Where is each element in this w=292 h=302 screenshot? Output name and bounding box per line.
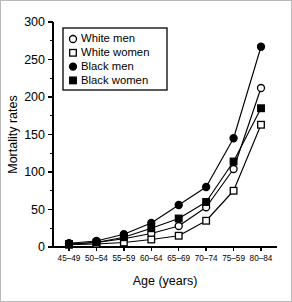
legend-marker [70, 50, 77, 57]
legend-marker [70, 77, 77, 84]
legend-label: White men [81, 32, 135, 44]
x-tick-label: 75–59 [222, 254, 245, 263]
legend-marker [70, 36, 77, 43]
legend-label: Black men [81, 60, 134, 72]
data-point-marker [230, 187, 237, 194]
y-tick-label: 250 [24, 53, 45, 67]
x-tick-label: 70–74 [195, 254, 218, 263]
data-point-marker [175, 232, 182, 239]
data-point-marker [203, 199, 210, 206]
y-tick-label: 50 [31, 203, 45, 217]
mortality-rates-line-chart: 050100150200250300 45–4950–5455–5960–646… [1, 1, 291, 301]
y-tick-label: 100 [24, 165, 45, 179]
legend-label: White women [81, 46, 149, 58]
data-point-marker [121, 234, 128, 241]
legend-marker [70, 63, 77, 70]
data-point-marker [258, 121, 265, 128]
x-tick-label: 80–84 [250, 254, 273, 263]
data-point-marker [258, 43, 265, 50]
x-axis-tick-labels: 45–4950–5455–5960–6465–6970–7475–5980–84 [58, 254, 273, 263]
series-line [69, 108, 261, 244]
series-line [69, 125, 261, 245]
data-point-marker [175, 223, 182, 230]
x-tick-label: 65–69 [167, 254, 190, 263]
data-point-marker [175, 202, 182, 209]
y-tick-label: 0 [38, 240, 45, 254]
legend: White menWhite womenBlack menBlack women [63, 28, 167, 90]
data-point-marker [93, 239, 100, 246]
data-point-marker [230, 166, 237, 173]
y-axis-tick-labels: 050100150200250300 [24, 15, 45, 254]
data-point-marker [258, 105, 265, 112]
data-point-marker [203, 184, 210, 191]
y-tick-label: 150 [24, 128, 45, 142]
legend-label: Black women [81, 74, 148, 86]
x-tick-label: 55–59 [112, 254, 135, 263]
data-point-marker [203, 217, 210, 224]
data-point-marker [66, 241, 73, 248]
data-point-marker [175, 215, 182, 222]
data-point-marker [148, 236, 155, 243]
data-point-marker [148, 225, 155, 232]
figure-container: 050100150200250300 45–4950–5455–5960–646… [0, 0, 292, 302]
y-axis-ticks [48, 22, 53, 247]
y-axis-title: Mortality rates [6, 95, 20, 174]
x-tick-label: 50–54 [85, 254, 108, 263]
data-point-marker [230, 135, 237, 142]
x-tick-label: 45–49 [58, 254, 81, 263]
data-point-marker [258, 85, 265, 92]
x-axis-title: Age (years) [133, 274, 198, 288]
x-tick-label: 60–64 [140, 254, 163, 263]
y-tick-label: 300 [24, 15, 45, 29]
y-tick-label: 200 [24, 90, 45, 104]
data-point-marker [230, 158, 237, 165]
